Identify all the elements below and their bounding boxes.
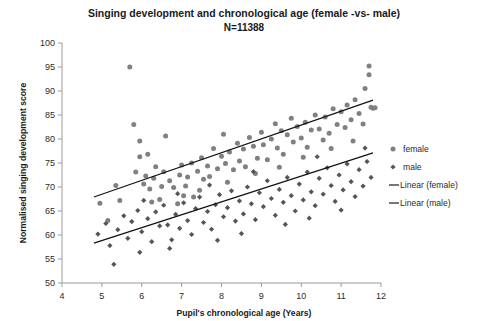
data-point-male: [129, 219, 134, 224]
data-point-female: [225, 180, 230, 185]
data-point-female: [313, 113, 318, 118]
data-point-female: [275, 146, 280, 151]
y-tick-label: 85: [45, 110, 55, 120]
data-point-female: [97, 201, 102, 206]
data-point-female: [285, 132, 290, 137]
data-point-male: [239, 231, 244, 236]
data-point-male: [307, 216, 312, 221]
x-tick-label: 11: [336, 291, 345, 301]
data-point-male: [281, 200, 286, 205]
data-point-male: [161, 203, 166, 208]
data-point-female: [143, 173, 148, 178]
data-point-female: [223, 161, 228, 166]
data-point-male: [185, 218, 190, 223]
data-point-male: [261, 204, 266, 209]
data-point-male: [321, 192, 326, 197]
data-point-male: [169, 237, 174, 242]
data-point-male: [337, 172, 342, 177]
data-point-male: [145, 216, 150, 221]
data-point-female: [219, 154, 224, 159]
y-tick-label: 55: [45, 254, 55, 264]
data-point-female: [349, 117, 354, 122]
legend-label-Linear (male): Linear (male): [400, 198, 451, 208]
data-point-female: [335, 122, 340, 127]
data-point-male: [197, 194, 202, 199]
data-point-female: [367, 72, 372, 77]
data-point-female: [241, 147, 246, 152]
data-point-female: [185, 174, 190, 179]
data-point-male: [352, 194, 357, 199]
data-point-female: [281, 152, 286, 157]
chart-container: Singing development and chronological ag…: [0, 0, 487, 321]
data-point-male: [341, 187, 346, 192]
data-point-female: [273, 121, 278, 126]
data-point-male: [157, 223, 162, 228]
data-point-female: [197, 188, 202, 193]
y-tick-label: 95: [45, 62, 55, 72]
legend-label-male: male: [403, 162, 422, 172]
data-point-male: [333, 199, 338, 204]
scatter-chart: Singing development and chronological ag…: [0, 0, 487, 321]
data-point-male: [317, 176, 322, 181]
data-point-male: [225, 205, 230, 210]
data-point-female: [191, 195, 196, 200]
x-tick-label: 10: [296, 291, 306, 301]
data-point-female: [131, 122, 136, 127]
data-point-male: [293, 208, 298, 213]
data-point-female: [247, 135, 252, 140]
chart-title: Singing development and chronological ag…: [88, 7, 400, 19]
data-point-male: [153, 209, 158, 214]
data-point-female: [183, 184, 188, 189]
x-tick-label: 4: [59, 291, 64, 301]
data-point-male: [135, 208, 140, 213]
data-point-female: [137, 154, 142, 159]
data-point-female: [363, 86, 368, 91]
data-point-male: [329, 183, 334, 188]
data-point-male: [181, 200, 186, 205]
data-point-female: [237, 159, 242, 164]
data-point-male: [313, 203, 318, 208]
legend-marker-male: [390, 164, 395, 169]
data-point-male: [165, 222, 170, 227]
data-point-female: [211, 146, 216, 151]
data-point-female: [299, 136, 304, 141]
data-point-female: [301, 155, 306, 160]
data-point-female: [351, 138, 356, 143]
data-point-male: [277, 187, 282, 192]
y-tick-label: 75: [45, 158, 55, 168]
data-point-female: [317, 126, 322, 131]
data-point-female: [137, 138, 142, 143]
data-point-female: [207, 174, 212, 179]
data-point-male: [273, 213, 278, 218]
data-point-male: [111, 262, 116, 267]
data-point-male: [368, 175, 373, 180]
trendline-linear--male-: [94, 153, 373, 243]
data-point-male: [297, 182, 302, 187]
legend-label-female: female: [403, 144, 429, 154]
data-point-male: [249, 201, 254, 206]
data-point-male: [289, 193, 294, 198]
data-point-female: [277, 165, 282, 170]
data-point-male: [269, 196, 274, 201]
data-point-male: [309, 189, 314, 194]
data-point-female: [117, 198, 122, 203]
data-point-male: [301, 197, 306, 202]
data-point-male: [175, 191, 180, 196]
data-point-male: [205, 209, 210, 214]
data-point-female: [181, 193, 186, 198]
data-point-female: [345, 102, 350, 107]
y-tick-label: 50: [45, 278, 55, 288]
data-point-male: [201, 220, 206, 225]
data-point-female: [357, 111, 362, 116]
x-tick-label: 5: [99, 291, 104, 301]
x-tick-label: 7: [179, 291, 184, 301]
data-point-female: [175, 201, 180, 206]
x-tick-label: 9: [259, 291, 264, 301]
data-point-male: [217, 192, 222, 197]
data-point-female: [243, 164, 248, 169]
data-point-female: [145, 152, 150, 157]
data-point-female: [163, 134, 168, 139]
x-tick-label: 12: [376, 291, 386, 301]
data-point-female: [231, 167, 236, 172]
data-point-female: [221, 132, 226, 137]
